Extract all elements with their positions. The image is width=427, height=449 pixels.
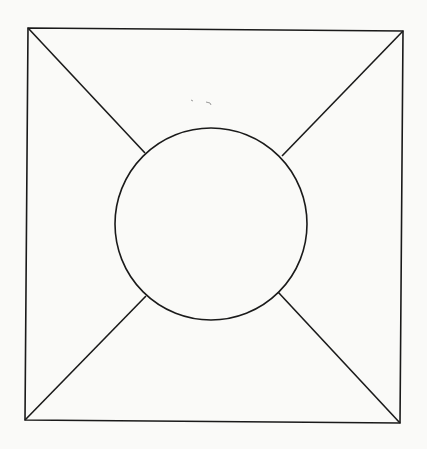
diagonal-bottom-left: [25, 296, 146, 420]
diagonal-top-right: [282, 31, 403, 156]
square-circle-diagram: [0, 0, 427, 449]
diagonal-top-left: [28, 28, 145, 153]
diagonal-bottom-right: [278, 292, 400, 423]
center-circle: [115, 128, 307, 320]
outer-square: [25, 28, 403, 423]
speck-mark: [191, 100, 211, 105]
